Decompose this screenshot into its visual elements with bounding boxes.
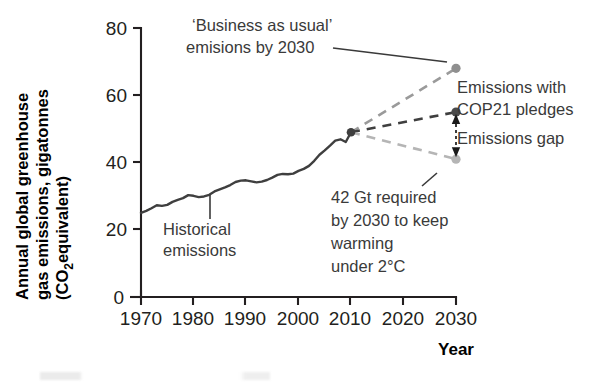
y-axis-ticks: 80 60 40 20 0: [106, 18, 141, 308]
bau-annotation-line-1: ‘Business as usual’: [192, 16, 332, 34]
y-tick-label-20: 20: [106, 219, 127, 240]
annotation-emissions-gap: Emissions gap: [452, 114, 565, 157]
x-axis-title: Year: [438, 340, 474, 359]
y-axis-title-co2-pre: (CO: [53, 270, 71, 300]
x-tick-label-1990: 1990: [224, 308, 266, 329]
target-annotation-line-2: by 2030 to keep: [331, 211, 448, 229]
emissions-gap-label: Emissions gap: [457, 129, 564, 147]
branch-point-marker: [347, 128, 356, 137]
bau-endpoint-marker: [451, 64, 460, 73]
x-tick-label-1970: 1970: [120, 308, 162, 329]
y-tick-label-80: 80: [106, 18, 127, 39]
target-annotation-line-3: warming: [330, 234, 393, 252]
emissions-gap-chart: Annual global greenhouse gas emissions, …: [0, 0, 598, 384]
historical-annotation-line-1: Historical: [163, 220, 231, 238]
y-axis-title-line-2: gas emissions, gigatonnes: [33, 89, 51, 300]
target-annotation-line-4: under 2°C: [331, 257, 406, 275]
historical-annotation-line-2: emissions: [163, 241, 236, 259]
annotation-2c-target: 42 Gt required by 2030 to keep warming u…: [330, 173, 448, 275]
target-annotation-line-1: 42 Gt required: [331, 188, 436, 206]
cop21-annotation-line-2: COP21 pledges: [457, 100, 574, 118]
y-tick-label-40: 40: [106, 152, 127, 173]
x-tick-label-2020: 2020: [382, 308, 424, 329]
y-axis-title-co2-post: equivalent): [53, 176, 71, 263]
x-tick-label-2000: 2000: [277, 308, 319, 329]
annotation-cop21-pledges: Emissions with COP21 pledges: [457, 78, 574, 118]
chart-canvas: Annual global greenhouse gas emissions, …: [0, 0, 598, 384]
annotation-business-as-usual: ‘Business as usual’ emisions by 2030: [186, 16, 447, 62]
target-projection-line: [351, 132, 456, 159]
y-tick-label-0: 0: [113, 287, 124, 308]
target-leader-line: [422, 173, 437, 186]
y-axis-title-line-3: (CO2equivalent): [53, 176, 76, 300]
y-axis-title-line-1: Annual global greenhouse: [13, 93, 31, 300]
bau-annotation-line-2: emisions by 2030: [186, 38, 314, 56]
y-tick-label-60: 60: [106, 85, 127, 106]
x-tick-label-2010: 2010: [329, 308, 371, 329]
x-tick-label-2030: 2030: [435, 308, 477, 329]
x-axis-ticks: 1970 1980 1990 2000 2010 2020 2030: [120, 290, 477, 329]
y-axis-title: Annual global greenhouse gas emissions, …: [13, 89, 76, 300]
bau-leader-line: [333, 48, 447, 62]
cop21-annotation-line-1: Emissions with: [457, 78, 566, 96]
historical-emissions-line: [141, 132, 351, 213]
annotation-historical-emissions: Historical emissions: [163, 195, 236, 259]
page-bottom-artifact: [40, 372, 270, 380]
x-tick-label-1980: 1980: [172, 308, 214, 329]
